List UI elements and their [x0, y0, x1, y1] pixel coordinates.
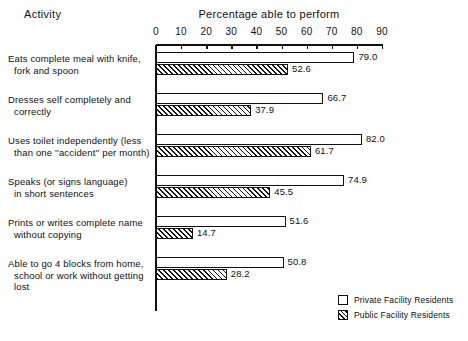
- bar-private[interactable]: [156, 93, 323, 104]
- bar-private[interactable]: [156, 216, 286, 227]
- x-axis-tick-mark: [156, 44, 157, 49]
- category-label-line: Prints or writes complete name: [8, 217, 152, 229]
- legend-item[interactable]: Public Facility Residents: [338, 307, 453, 322]
- x-axis-tick-label: 80: [351, 26, 363, 37]
- category-label: Able to go 4 blocks from home,school or …: [8, 258, 152, 293]
- x-axis-tick-mark: [357, 44, 358, 49]
- bar-value-private: 50.8: [288, 256, 307, 267]
- bar-groups: Eats complete meal with knife,fork and s…: [0, 49, 468, 295]
- bar-private[interactable]: [156, 134, 362, 145]
- x-axis-tick-label: 20: [200, 26, 212, 37]
- x-axis-tick-label: 10: [175, 26, 187, 37]
- x-axis-tick-mark: [181, 44, 182, 49]
- category-label-line: without copying: [8, 229, 152, 241]
- bar-value-public: 61.7: [315, 145, 334, 156]
- category-label-line: Dresses self completely and: [8, 94, 152, 106]
- bar-group: Uses toilet independently (lessthan one …: [0, 131, 468, 172]
- bars-container: 50.828.2: [156, 254, 468, 295]
- activity-column-header: Activity: [24, 8, 61, 20]
- x-axis-tick-label: 0: [153, 26, 159, 37]
- bar-public[interactable]: [156, 187, 270, 198]
- bar-value-public: 45.5: [274, 186, 293, 197]
- category-label: Eats complete meal with knife,fork and s…: [8, 53, 152, 76]
- bar-value-private: 79.0: [358, 51, 377, 62]
- legend-item[interactable]: Private Facility Residents: [338, 292, 453, 307]
- x-axis-tick-mark: [382, 44, 383, 49]
- category-label-line: in short sentences: [8, 188, 152, 200]
- category-label: Prints or writes complete namewithout co…: [8, 217, 152, 240]
- category-label-line: Able to go 4 blocks from home,: [8, 258, 152, 270]
- legend-label: Public Facility Residents: [354, 310, 450, 320]
- x-axis-tick-mark: [206, 44, 207, 49]
- bars-container: 66.737.9: [156, 90, 468, 131]
- bars-container: 82.061.7: [156, 131, 468, 172]
- x-axis-tick-mark: [282, 44, 283, 49]
- bar-value-private: 51.6: [290, 215, 309, 226]
- bar-public[interactable]: [156, 146, 311, 157]
- bar-value-public: 37.9: [255, 104, 274, 115]
- bar-value-private: 82.0: [366, 133, 385, 144]
- bar-public[interactable]: [156, 269, 227, 280]
- category-label-line: correctly: [8, 106, 152, 118]
- category-label-line: fork and spoon: [8, 65, 152, 77]
- bar-group: Eats complete meal with knife,fork and s…: [0, 49, 468, 90]
- bar-value-public: 14.7: [197, 227, 216, 238]
- x-axis-tick-mark: [307, 44, 308, 49]
- category-label-line: Eats complete meal with knife,: [8, 53, 152, 65]
- bar-private[interactable]: [156, 52, 354, 63]
- bar-private[interactable]: [156, 257, 284, 268]
- x-axis-tick-label: 70: [326, 26, 338, 37]
- x-axis-line: [156, 44, 382, 46]
- category-label-line: Uses toilet independently (less: [8, 135, 152, 147]
- bar-value-public: 52.6: [292, 63, 311, 74]
- bars-container: 79.052.6: [156, 49, 468, 90]
- bar-value-private: 66.7: [327, 92, 346, 103]
- x-axis-tick-mark: [256, 44, 257, 49]
- category-label: Uses toilet independently (lessthan one …: [8, 135, 152, 158]
- category-label-line: school or work without getting lost: [8, 270, 152, 293]
- x-axis-tick-label: 50: [276, 26, 288, 37]
- category-label: Speaks (or signs language)in short sente…: [8, 176, 152, 199]
- bar-public[interactable]: [156, 105, 251, 116]
- x-axis-tick-mark: [332, 44, 333, 49]
- bars-container: 74.945.5: [156, 172, 468, 213]
- bar-value-public: 28.2: [231, 268, 250, 279]
- bars-container: 51.614.7: [156, 213, 468, 254]
- bar-value-private: 74.9: [348, 174, 367, 185]
- bar-public[interactable]: [156, 228, 193, 239]
- chart-title: Percentage able to perform: [156, 8, 382, 20]
- bar-group: Speaks (or signs language)in short sente…: [0, 172, 468, 213]
- bar-group: Able to go 4 blocks from home,school or …: [0, 254, 468, 295]
- x-axis-tick-label: 30: [226, 26, 238, 37]
- legend-swatch-icon: [338, 295, 348, 305]
- chart-legend: Private Facility ResidentsPublic Facilit…: [338, 292, 453, 322]
- category-label-line: Speaks (or signs language): [8, 176, 152, 188]
- x-axis-tick-label: 40: [251, 26, 263, 37]
- x-axis-tick-label: 60: [301, 26, 313, 37]
- bar-private[interactable]: [156, 175, 344, 186]
- x-axis-tick-label: 90: [376, 26, 388, 37]
- category-label-line: than one ''accident'' per month): [8, 147, 152, 159]
- bar-group: Dresses self completely andcorrectly66.7…: [0, 90, 468, 131]
- bar-group: Prints or writes complete namewithout co…: [0, 213, 468, 254]
- legend-swatch-icon: [338, 310, 348, 320]
- bar-public[interactable]: [156, 64, 288, 75]
- legend-label: Private Facility Residents: [354, 295, 453, 305]
- x-axis-tick-mark: [231, 44, 232, 49]
- category-label: Dresses self completely andcorrectly: [8, 94, 152, 117]
